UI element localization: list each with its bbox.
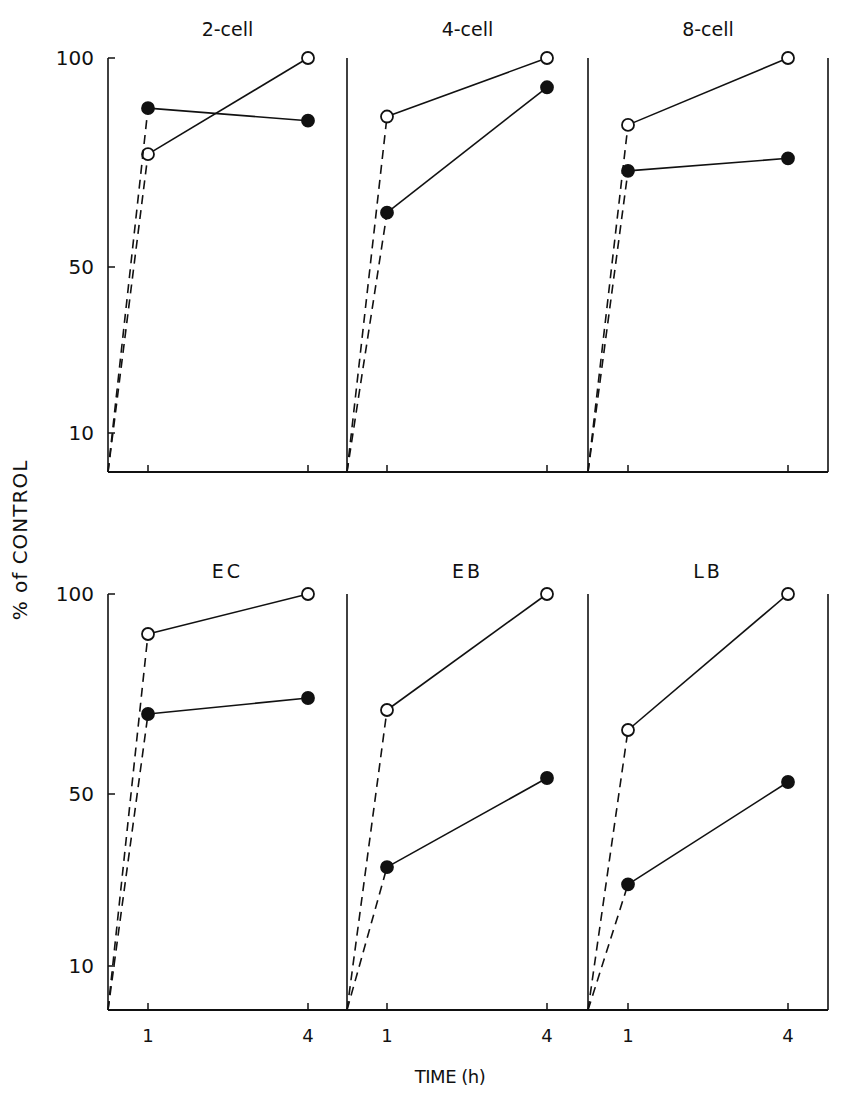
filled-circle-marker: [541, 772, 553, 784]
x-axis-label: TIME (h): [415, 1066, 485, 1087]
dashed-line-filled: [588, 884, 628, 1010]
solid-line-open: [387, 58, 547, 117]
filled-circle-marker: [622, 878, 634, 890]
y-tick-label: 50: [69, 255, 94, 279]
panel-title: LB: [693, 560, 723, 582]
dashed-line-filled: [588, 171, 628, 472]
panel-title: 8-cell: [682, 18, 734, 40]
filled-circle-marker: [782, 152, 794, 164]
solid-line-filled: [387, 778, 547, 867]
dashed-line-open: [347, 710, 387, 1010]
x-tick-label: 1: [622, 1025, 633, 1046]
dashed-line-filled: [347, 867, 387, 1010]
y-tick-label: 50: [69, 782, 94, 806]
dashed-line-open: [588, 730, 628, 1010]
solid-line-filled: [387, 87, 547, 212]
panel-title: 4-cell: [442, 18, 494, 40]
x-tick-label: 4: [782, 1025, 793, 1046]
y-tick-label: 100: [56, 46, 94, 70]
filled-circle-marker: [381, 861, 393, 873]
dashed-line-open: [108, 634, 148, 1010]
solid-line-open: [628, 594, 788, 730]
dashed-line-filled: [108, 108, 148, 472]
dashed-line-open: [588, 125, 628, 472]
dashed-line-filled: [347, 213, 387, 472]
solid-line-filled: [148, 698, 308, 714]
panel-title: 2-cell: [202, 18, 254, 40]
filled-circle-marker: [142, 102, 154, 114]
open-circle-marker: [302, 588, 314, 600]
x-tick-label: 4: [302, 1025, 313, 1046]
solid-line-open: [148, 58, 308, 154]
solid-line-open: [387, 594, 547, 710]
x-tick-label: 4: [541, 1025, 552, 1046]
filled-circle-marker: [541, 81, 553, 93]
dashed-line-open: [347, 117, 387, 472]
panel-title: EC: [212, 560, 243, 582]
filled-circle-marker: [381, 207, 393, 219]
x-tick-label: 1: [142, 1025, 153, 1046]
y-tick-label: 10: [69, 954, 94, 978]
open-circle-marker: [782, 52, 794, 64]
solid-line-filled: [628, 158, 788, 171]
open-circle-marker: [541, 52, 553, 64]
y-tick-label: 10: [69, 421, 94, 445]
filled-circle-marker: [622, 165, 634, 177]
y-tick-label: 100: [56, 582, 94, 606]
open-circle-marker: [622, 119, 634, 131]
filled-circle-marker: [142, 708, 154, 720]
small-multiples-figure: 100501010050101414142-cell4-cell8-cellEC…: [0, 0, 856, 1103]
open-circle-marker: [381, 111, 393, 123]
open-circle-marker: [541, 588, 553, 600]
open-circle-marker: [622, 724, 634, 736]
open-circle-marker: [142, 628, 154, 640]
filled-circle-marker: [302, 692, 314, 704]
y-axis-label: % of CONTROL: [8, 460, 32, 621]
x-tick-label: 1: [381, 1025, 392, 1046]
panel-title: EB: [452, 560, 483, 582]
filled-circle-marker: [302, 115, 314, 127]
solid-line-open: [628, 58, 788, 125]
open-circle-marker: [302, 52, 314, 64]
filled-circle-marker: [782, 776, 794, 788]
solid-line-open: [148, 594, 308, 634]
open-circle-marker: [782, 588, 794, 600]
open-circle-marker: [381, 704, 393, 716]
solid-line-filled: [628, 782, 788, 884]
solid-line-filled: [148, 108, 308, 121]
open-circle-marker: [142, 148, 154, 160]
